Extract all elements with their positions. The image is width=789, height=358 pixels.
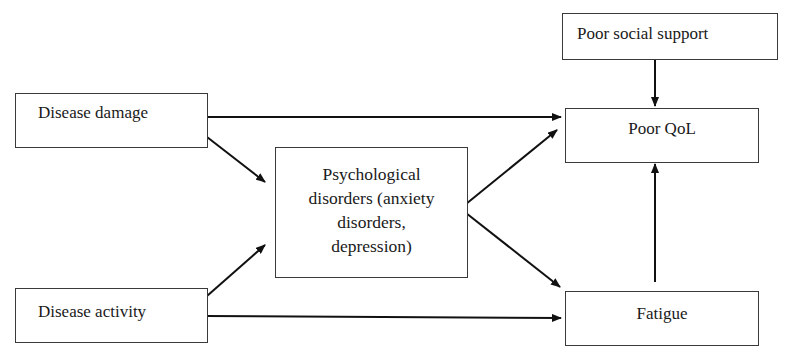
node-poor-social-support: Poor social support — [562, 13, 778, 60]
node-label-line: disorders, — [276, 210, 467, 234]
node-label: Poor social support — [577, 24, 708, 43]
node-label: Disease activity — [38, 302, 146, 321]
edge-activity-to-fatigue — [206, 316, 561, 318]
node-fatigue: Fatigue — [565, 291, 759, 346]
node-psychological-disorders: Psychological disorders (anxiety disorde… — [275, 147, 468, 278]
node-disease-activity: Disease activity — [15, 288, 208, 343]
edge-psych-to-qol — [466, 130, 557, 204]
node-label-line: depression) — [276, 234, 467, 258]
node-label-line: Psychological — [276, 162, 467, 186]
edge-damage-to-psych — [207, 137, 265, 182]
edge-activity-to-psych — [207, 245, 265, 296]
node-label: Disease damage — [38, 103, 148, 122]
node-poor-qol: Poor QoL — [565, 108, 759, 163]
node-label: Poor QoL — [628, 119, 696, 138]
node-disease-damage: Disease damage — [15, 93, 208, 148]
node-label: Fatigue — [637, 304, 688, 323]
node-label-line: disorders (anxiety — [276, 186, 467, 210]
edge-psych-to-fatigue — [466, 213, 560, 287]
